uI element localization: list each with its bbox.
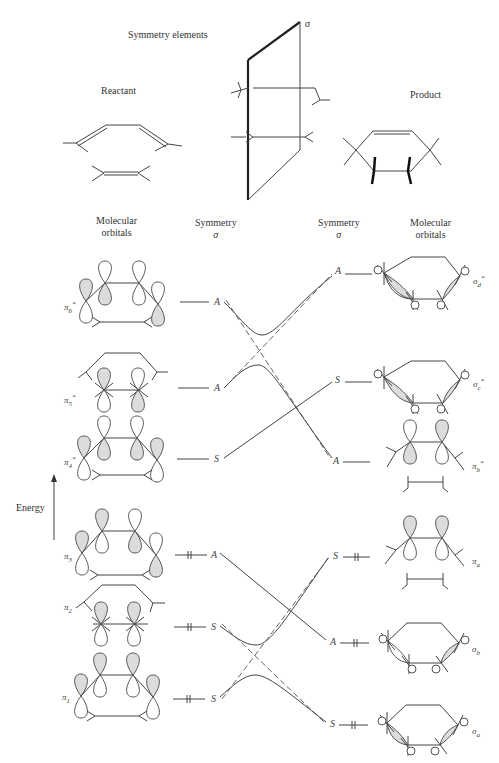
left-levels <box>173 302 209 703</box>
mo-pi-b-star <box>386 420 464 492</box>
energy-arrow <box>51 474 57 540</box>
mo-sigma-d-star <box>374 257 469 310</box>
mo-pi-a <box>385 516 464 589</box>
right-levels <box>339 274 372 729</box>
correlation-lines-upper <box>224 274 332 458</box>
mo-pi3 <box>76 509 163 580</box>
mirror-plane <box>231 22 330 200</box>
correlation-diagram <box>0 0 499 763</box>
mo-pi5-star <box>78 353 168 412</box>
correlation-lines-lower <box>220 553 330 724</box>
mo-sigma-b <box>379 623 469 674</box>
mo-pi2 <box>76 585 165 646</box>
mo-pi6-star <box>80 261 165 327</box>
product-structure <box>343 131 441 184</box>
mo-sigma-c-star <box>374 361 469 414</box>
mo-pi4-star <box>78 416 164 482</box>
reactant-structure <box>63 125 182 181</box>
mo-sigma-a <box>378 705 468 756</box>
mo-pi1 <box>75 653 160 721</box>
